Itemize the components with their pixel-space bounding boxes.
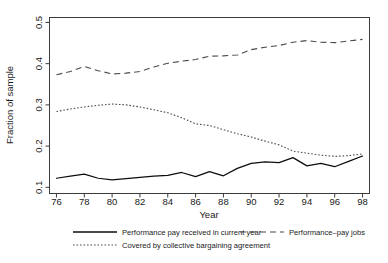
x-tick-label: 76 — [51, 196, 62, 207]
x-tick-label: 94 — [302, 196, 313, 207]
legend-label: Covered by collective bargaining agreeme… — [122, 241, 271, 250]
x-tick-label: 90 — [246, 196, 257, 207]
x-tick-label: 86 — [190, 196, 201, 207]
x-axis-title: Year — [199, 209, 218, 220]
x-tick-label: 80 — [107, 196, 118, 207]
x-tick-label: 88 — [218, 196, 229, 207]
y-tick-label: 0.3 — [34, 98, 45, 111]
chart-figure: 0.10.20.30.40.5 767880828486889092949698… — [0, 0, 388, 263]
x-tick-label: 78 — [79, 196, 90, 207]
y-tick-label: 0.4 — [34, 57, 45, 70]
chart-background — [0, 0, 388, 263]
legend-label: Performance–pay jobs — [289, 228, 365, 237]
y-tick-label: 0.1 — [34, 181, 45, 194]
y-tick-label: 0.5 — [34, 16, 45, 29]
x-tick-label: 84 — [162, 196, 173, 207]
x-tick-label: 82 — [135, 196, 146, 207]
y-tick-label: 0.2 — [34, 139, 45, 152]
y-axis-title: Fraction of sample — [4, 66, 15, 144]
x-tick-label: 96 — [329, 196, 340, 207]
x-tick-label: 92 — [274, 196, 285, 207]
x-tick-label: 98 — [357, 196, 368, 207]
line-chart: 0.10.20.30.40.5 767880828486889092949698… — [0, 0, 388, 263]
